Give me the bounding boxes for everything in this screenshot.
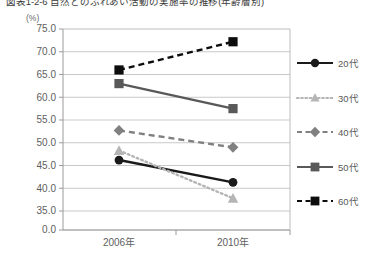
legend-item-50dai[interactable]: 50代 <box>296 150 369 185</box>
y-axis-tick-label: 0.0 <box>42 224 56 235</box>
x-axis-tick-label: 2010年 <box>217 236 249 248</box>
legend-item-40dai[interactable]: 40代 <box>296 115 369 150</box>
legend-label-20dai: 20代 <box>334 56 359 70</box>
data-point-marker <box>228 142 239 153</box>
legend-key-60dai <box>296 193 334 209</box>
chart-legend: 20代 30代 40代 50代 <box>296 46 369 219</box>
data-point-marker <box>114 145 124 155</box>
data-point-marker <box>114 79 123 88</box>
legend-item-20dai[interactable]: 20代 <box>296 46 369 81</box>
y-axis-tick-label: 65.0 <box>37 69 57 80</box>
y-axis-tick-label: 75.0 <box>37 23 57 34</box>
legend-item-30dai[interactable]: 30代 <box>296 81 369 116</box>
legend-item-60dai[interactable]: 60代 <box>296 184 369 219</box>
data-point-marker <box>114 65 123 74</box>
y-axis-tick-label: 35.0 <box>37 205 57 216</box>
legend-label-30dai: 30代 <box>334 91 359 105</box>
series-40代 <box>114 125 239 153</box>
legend-key-20dai <box>296 55 334 71</box>
x-axis-tick-label: 2006年 <box>103 236 135 248</box>
legend-key-50dai <box>296 159 334 175</box>
data-point-marker <box>228 37 237 46</box>
series-20代 <box>115 156 238 187</box>
y-axis-tick-label: 55.0 <box>37 114 57 125</box>
y-axis-tick-label: 50.0 <box>37 137 57 148</box>
legend-label-40dai: 40代 <box>334 125 359 139</box>
data-point-marker <box>229 178 238 187</box>
y-axis-tick-label: 40.0 <box>37 183 57 194</box>
y-axis-tick-label: 45.0 <box>37 160 57 171</box>
series-50代 <box>114 79 237 113</box>
gridlines-group <box>59 29 290 230</box>
legend-label-50dai: 50代 <box>334 160 359 174</box>
y-axis-tick-label: 60.0 <box>37 92 57 103</box>
series-60代 <box>114 37 237 74</box>
series-30代 <box>114 145 238 202</box>
chart-figure: 図表1-2-6 自然とのふれあい活動の実施率の推移(年齢層別) (%) 75.0… <box>0 0 369 258</box>
legend-key-30dai <box>296 90 334 106</box>
y-axis-tick-labels: 75.070.065.060.055.050.045.040.035.00.0 <box>37 23 57 235</box>
legend-key-40dai <box>296 124 334 140</box>
y-axis-tick-label: 70.0 <box>37 46 57 57</box>
axes-group <box>63 29 290 235</box>
data-point-marker <box>114 125 125 136</box>
data-point-marker <box>115 156 124 165</box>
legend-label-60dai: 60代 <box>334 194 359 208</box>
x-axis-tick-labels: 2006年2010年 <box>103 236 249 248</box>
data-point-marker <box>228 104 237 113</box>
